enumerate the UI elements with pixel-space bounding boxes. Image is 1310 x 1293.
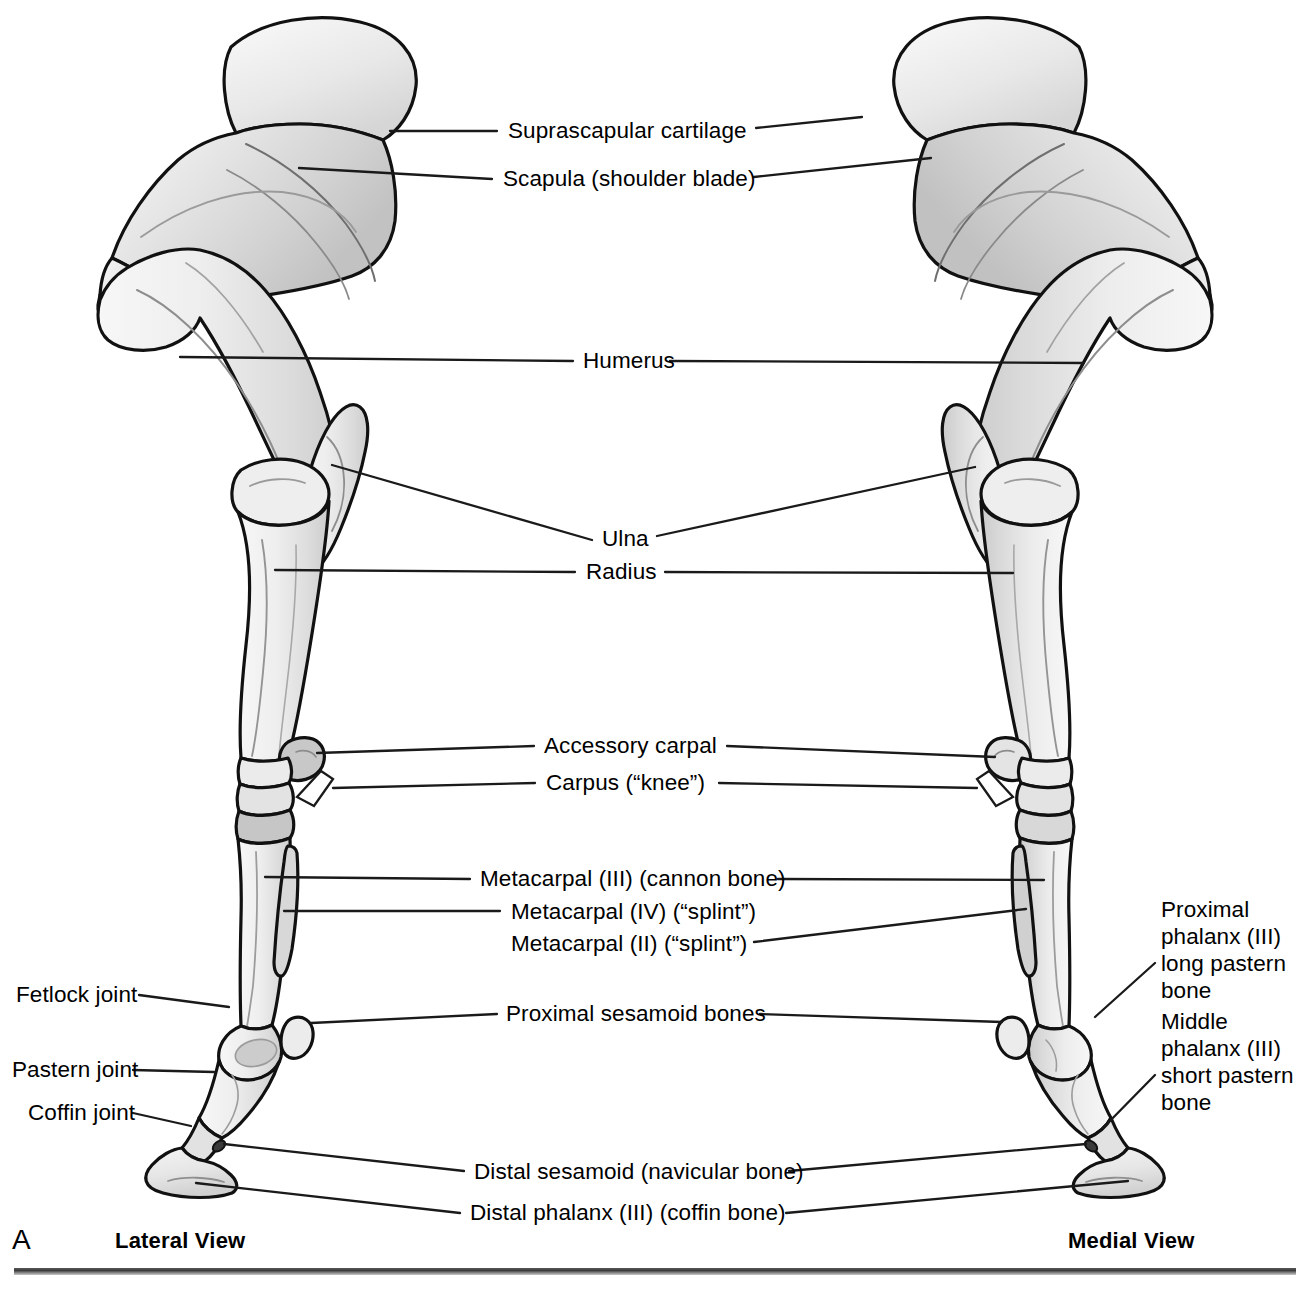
panel-letter: A	[12, 1224, 31, 1256]
label-distal-sesamoid: Distal sesamoid (navicular bone)	[474, 1158, 804, 1185]
label-fetlock-joint: Fetlock joint	[16, 981, 137, 1008]
label-middle-phalanx: Middle phalanx (III) short pastern bone	[1161, 1008, 1301, 1116]
label-pastern-joint: Pastern joint	[12, 1056, 138, 1083]
label-carpus: Carpus (“knee”)	[546, 769, 705, 796]
medial-view-label: Medial View	[1068, 1228, 1195, 1254]
anatomy-figure: Suprascapular cartilage Scapula (shoulde…	[0, 0, 1310, 1293]
label-suprascapular-cartilage: Suprascapular cartilage	[508, 117, 747, 144]
label-middle-phalanx-line-4: bone	[1161, 1090, 1211, 1115]
label-scapula: Scapula (shoulder blade)	[503, 165, 756, 192]
label-middle-phalanx-line-3: short pastern	[1161, 1063, 1294, 1088]
label-radius: Radius	[586, 558, 657, 585]
label-metacarpal-ii: Metacarpal (II) (“splint”)	[511, 930, 747, 957]
label-proximal-phalanx: Proximal phalanx (III) long pastern bone	[1161, 896, 1301, 1004]
label-distal-phalanx: Distal phalanx (III) (coffin bone)	[470, 1199, 786, 1226]
label-metacarpal-iii: Metacarpal (III) (cannon bone)	[480, 865, 786, 892]
label-proximal-phalanx-line-3: long pastern	[1161, 951, 1286, 976]
label-accessory-carpal: Accessory carpal	[544, 732, 717, 759]
label-middle-phalanx-line-1: Middle	[1161, 1009, 1228, 1034]
label-proximal-phalanx-line-1: Proximal	[1161, 897, 1249, 922]
label-proximal-sesamoid-bones: Proximal sesamoid bones	[506, 1000, 766, 1027]
label-metacarpal-iv: Metacarpal (IV) (“splint”)	[511, 898, 756, 925]
label-middle-phalanx-line-2: phalanx (III)	[1161, 1036, 1281, 1061]
label-humerus: Humerus	[583, 347, 675, 374]
label-ulna: Ulna	[602, 525, 649, 552]
label-proximal-phalanx-line-4: bone	[1161, 978, 1211, 1003]
figure-bottom-rule	[14, 1268, 1296, 1275]
skeleton-illustration	[0, 0, 1310, 1293]
lateral-view-label: Lateral View	[115, 1228, 245, 1254]
label-coffin-joint: Coffin joint	[28, 1099, 135, 1126]
label-proximal-phalanx-line-2: phalanx (III)	[1161, 924, 1281, 949]
